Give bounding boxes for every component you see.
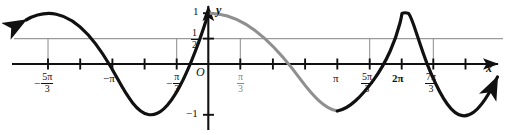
y-label-half-denominator: 2 (190, 40, 199, 51)
x-tick-label-7pi-3: 7π 3 (424, 72, 438, 94)
denominator: 3 (236, 84, 245, 95)
y-axis-name: y (216, 4, 221, 16)
numerator: 5π (40, 72, 54, 83)
origin-label: O (196, 66, 205, 78)
numerator: π (172, 72, 181, 83)
y-label-half-numerator: 1 (190, 28, 199, 39)
numerator: 7π (424, 72, 438, 83)
numerator: π (236, 72, 245, 83)
numerator: 5π (360, 72, 374, 83)
y-label-one: 1 (193, 6, 199, 17)
x-tick-label-2pi: 2π (392, 73, 404, 84)
x-tick-label-minus-pi-3: − π 3 (166, 72, 181, 94)
denominator: 3 (424, 84, 438, 95)
x-tick-label-pi: π (333, 73, 339, 84)
y-label-half: 1 2 (190, 28, 199, 50)
figure-canvas: 1 1 2 −1 y x O − 5π 3 −π − π 3 π 3 π (0, 0, 517, 135)
x-tick-label-5pi-3: 5π 3 (360, 72, 374, 94)
denominator: 3 (40, 84, 54, 95)
x-tick-label-minus-5pi-3: − 5π 3 (34, 72, 54, 94)
plot-svg (0, 0, 517, 135)
y-label-minus-one: −1 (186, 108, 198, 119)
x-axis-name: x (486, 62, 492, 74)
denominator: 3 (172, 84, 181, 95)
x-tick-label-pi-3: π 3 (236, 72, 245, 94)
x-tick-label-minus-pi: −π (103, 73, 115, 84)
denominator: 3 (360, 84, 374, 95)
